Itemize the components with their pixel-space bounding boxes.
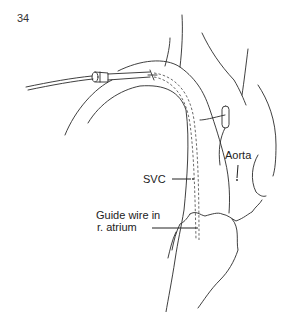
guide-wire-pointer xyxy=(0,0,293,312)
